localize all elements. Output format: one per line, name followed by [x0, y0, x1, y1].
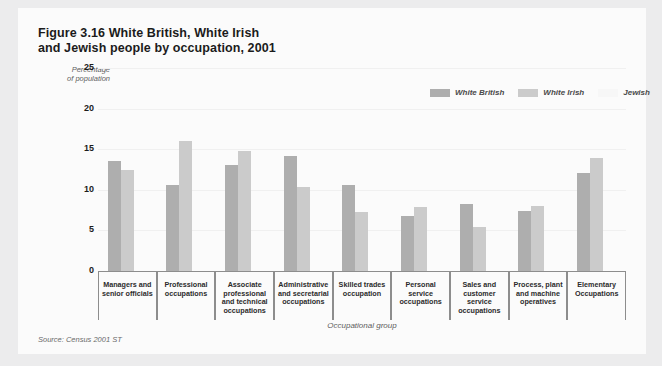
bar [473, 227, 486, 271]
category-axis-cell: Managers and senior officials [98, 272, 157, 320]
bar [577, 173, 590, 271]
y-axis-tick-label: 5 [72, 224, 94, 234]
source-note: Source: Census 2001 ST [38, 335, 122, 344]
category-tick [510, 272, 567, 278]
bar [401, 216, 414, 271]
bar [225, 165, 238, 271]
y-axis-ticks: 2520151050 [68, 68, 94, 271]
category-label: Process, plant and machine operatives [511, 281, 566, 307]
bar [590, 158, 603, 271]
category-label: Professional occupations [159, 281, 214, 298]
category-tick [451, 272, 508, 278]
bar-group [157, 68, 216, 271]
bar-group [509, 68, 568, 271]
category-tick [216, 272, 273, 278]
category-label: Personal service occupations [393, 281, 448, 307]
bar [166, 185, 179, 271]
bar [121, 170, 134, 271]
category-label: Elementary Occupations [569, 281, 624, 298]
bar [460, 204, 473, 271]
title-line-1: Figure 3.16 White British, White Irish [38, 26, 458, 41]
x-axis-label: Occupational group [98, 321, 626, 330]
category-tick [568, 272, 625, 278]
category-tick [99, 272, 156, 278]
y-axis-tick-label: 15 [72, 143, 94, 153]
plot-area [98, 68, 626, 271]
category-axis-cell: Personal service occupations [391, 272, 450, 320]
category-axis-cell: Sales and customer service occupations [450, 272, 509, 320]
category-axis-cell: Professional occupations [157, 272, 216, 320]
category-label: Sales and customer service occupations [452, 281, 507, 315]
bar [355, 212, 368, 271]
bar [518, 211, 531, 271]
bar [531, 206, 544, 271]
category-label: Administrative and secretarial occupatio… [276, 281, 331, 307]
category-axis-cell: Associate professional and technical occ… [215, 272, 274, 320]
category-axis: Managers and senior officialsProfessiona… [98, 272, 626, 320]
y-axis-tick-label: 25 [72, 62, 94, 72]
bar-group [274, 68, 333, 271]
bar-group [391, 68, 450, 271]
y-axis-tick-label: 0 [72, 265, 94, 275]
title-line-2: and Jewish people by occupation, 2001 [38, 41, 458, 56]
bar-group [567, 68, 626, 271]
category-label: Managers and senior officials [100, 281, 155, 298]
bar [238, 151, 251, 271]
category-tick [392, 272, 449, 278]
category-axis-cell: Elementary Occupations [567, 272, 626, 320]
bar-group [450, 68, 509, 271]
bar-group [215, 68, 274, 271]
category-label: Skilled trades occupation [335, 281, 390, 298]
category-tick [275, 272, 332, 278]
bar-group [98, 68, 157, 271]
bar [284, 156, 297, 271]
category-axis-cell: Skilled trades occupation [333, 272, 392, 320]
category-tick [158, 272, 215, 278]
bar [414, 207, 427, 271]
category-label: Associate professional and technical occ… [217, 281, 272, 315]
category-tick [334, 272, 391, 278]
legend-label: Jewish [623, 88, 650, 97]
bar-group [333, 68, 392, 271]
category-axis-cell: Process, plant and machine operatives [509, 272, 568, 320]
category-axis-cell: Administrative and secretarial occupatio… [274, 272, 333, 320]
y-axis-tick-label: 10 [72, 184, 94, 194]
bar [179, 141, 192, 271]
page-title: Figure 3.16 White British, White Irish a… [38, 26, 458, 56]
bar [297, 187, 310, 271]
bar [108, 161, 121, 271]
bar [342, 185, 355, 271]
y-axis-tick-label: 20 [72, 103, 94, 113]
figure-page: Figure 3.16 White British, White Irish a… [18, 8, 646, 354]
